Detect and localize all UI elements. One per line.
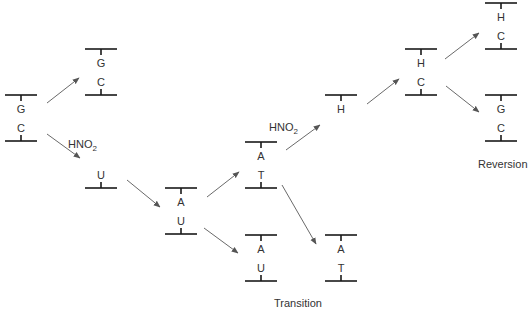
base-letter: H bbox=[497, 11, 505, 23]
base-letter: C bbox=[97, 76, 105, 88]
arrow-au-1-to-at-1 bbox=[207, 172, 239, 197]
base-letter: G bbox=[97, 57, 106, 69]
base-letter: G bbox=[497, 103, 506, 115]
svg-text:HNO2: HNO2 bbox=[68, 138, 97, 153]
base-letter: C bbox=[417, 76, 425, 88]
transition-label: Transition bbox=[274, 297, 322, 309]
base-pair-hc-1: HC bbox=[405, 49, 437, 95]
base-letter: H bbox=[337, 103, 345, 115]
base-letter: C bbox=[17, 122, 25, 134]
base-letter: T bbox=[338, 262, 345, 274]
hno2-label-second: HNO2 bbox=[269, 121, 298, 136]
base-letter: A bbox=[257, 243, 265, 255]
arrow-gc-start-to-gc-copy bbox=[47, 78, 79, 103]
arrow-at-1-to-at-2 bbox=[282, 185, 316, 244]
base-letter: A bbox=[337, 243, 345, 255]
base-pair-hc-2: HC bbox=[485, 3, 517, 49]
base-letter: G bbox=[17, 103, 26, 115]
base-pair-at-2: AT bbox=[325, 235, 357, 281]
reversion-label: Reversion bbox=[478, 158, 528, 170]
base-letter: C bbox=[497, 122, 505, 134]
reaction-arrows bbox=[47, 33, 479, 253]
arrow-hc-1-to-gc-rev bbox=[446, 86, 479, 112]
base-pair-gc-rev: GC bbox=[485, 95, 517, 141]
hno2-label-first: HNO2 bbox=[68, 138, 97, 153]
arrow-u-strand-to-au-1 bbox=[127, 180, 160, 207]
base-letter: T bbox=[258, 169, 265, 181]
base-letter: A bbox=[177, 196, 185, 208]
base-letter: U bbox=[177, 215, 185, 227]
base-pair-u-strand: U bbox=[85, 169, 117, 188]
base-pair-au-2: AU bbox=[245, 235, 277, 281]
base-pair-gc-copy: GC bbox=[85, 49, 117, 95]
base-letter: U bbox=[97, 169, 105, 181]
base-letter: H bbox=[417, 57, 425, 69]
arrow-au-1-to-au-2 bbox=[204, 228, 238, 253]
base-letter: A bbox=[257, 150, 265, 162]
base-pair-au-1: AU bbox=[165, 188, 197, 234]
base-letter: C bbox=[497, 30, 505, 42]
svg-text:HNO2: HNO2 bbox=[269, 121, 298, 136]
arrow-hc-1-to-hc-2 bbox=[445, 33, 479, 59]
base-pair-h-strand: H bbox=[325, 95, 357, 115]
base-pair-gc-start: GC bbox=[5, 95, 37, 141]
base-pair-at-1: AT bbox=[245, 142, 277, 188]
arrow-h-strand-to-hc-1 bbox=[367, 79, 399, 104]
mutation-diagram: GCGCUAUATAUATHHCHCGC HNO2 HNO2 Transitio… bbox=[0, 0, 530, 314]
base-letter: U bbox=[257, 262, 265, 274]
